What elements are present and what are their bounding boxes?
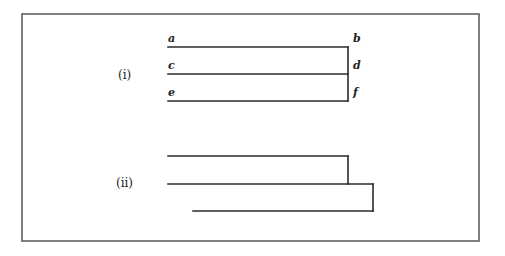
part-i-point-labels: abcdef	[168, 32, 361, 99]
part-i-lines	[168, 47, 348, 101]
point-label-e: e	[168, 86, 175, 99]
point-label-b: b	[353, 32, 361, 45]
part-ii-label: (ii)	[116, 176, 133, 190]
point-label-a: a	[168, 32, 175, 45]
part-i-label: (i)	[118, 68, 131, 82]
point-label-d: d	[353, 59, 361, 72]
part-ii-diagram: (ii)	[116, 156, 373, 211]
figure-frame	[22, 14, 479, 241]
part-ii-lines	[168, 156, 373, 211]
part-i-diagram: (i) abcdef	[118, 32, 361, 101]
diagram-canvas: (i) abcdef (ii)	[0, 0, 505, 256]
line-diagram: (i) abcdef (ii)	[0, 0, 505, 256]
point-label-f: f	[352, 86, 360, 99]
point-label-c: c	[168, 59, 175, 72]
